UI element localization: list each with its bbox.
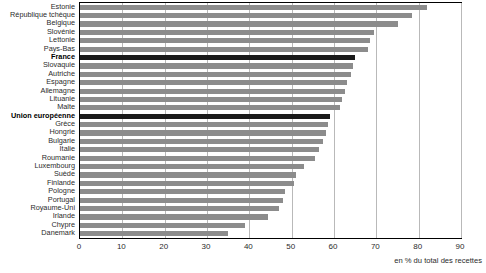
bar-row (80, 112, 461, 120)
bar-portugal (80, 198, 283, 203)
bar-row (80, 79, 461, 87)
x-tick-label: 0 (77, 242, 81, 252)
bar-row (80, 221, 461, 229)
category-label: Chypre (51, 221, 75, 228)
x-axis-tick-labels: 0102030405060708090 (79, 242, 462, 254)
x-tick-label: 60 (329, 242, 338, 252)
category-label: Malte (57, 103, 75, 110)
category-label: Hongrie (49, 128, 75, 135)
x-tick-label: 20 (159, 242, 168, 252)
bar-row (80, 3, 461, 11)
x-tick-label: 40 (244, 242, 253, 252)
bar-lituanie (80, 97, 342, 102)
x-tick-label: 50 (286, 242, 295, 252)
category-label: Suède (54, 170, 75, 177)
bar-row (80, 95, 461, 103)
bar-danemark (80, 231, 228, 236)
x-tick-label: 30 (202, 242, 211, 252)
chart-container: EstonieRépublique tchèqueBelgiqueSlovéni… (0, 0, 486, 273)
bar-row (80, 11, 461, 19)
x-axis-label: en % du total des recettes (394, 256, 482, 265)
bar-row (80, 230, 461, 238)
category-label: Pologne (48, 187, 75, 194)
category-label: Lettonie (49, 36, 75, 43)
bar-su-de (80, 172, 296, 177)
category-label: Pays-Bas (44, 45, 75, 52)
x-tick-label: 90 (456, 242, 465, 252)
category-label: Grèce (55, 120, 75, 127)
bar-espagne (80, 80, 347, 85)
bar-malte (80, 105, 340, 110)
category-label: Belgique (47, 19, 75, 26)
category-label: Slovaquie (43, 61, 75, 68)
plot-area (79, 2, 462, 239)
bar-pologne (80, 189, 285, 194)
category-label: Italie (60, 145, 75, 152)
bar-row (80, 62, 461, 70)
category-label: Allemagne (41, 87, 75, 94)
category-label: Finlande (47, 179, 75, 186)
bar-row (80, 188, 461, 196)
bar-row (80, 162, 461, 170)
x-tick-label: 80 (413, 242, 422, 252)
bar-autriche (80, 72, 351, 77)
bar-slov-nie (80, 30, 374, 35)
bar-luxembourg (80, 164, 304, 169)
bar-row (80, 45, 461, 53)
category-label: Autriche (48, 70, 75, 77)
bar-france (80, 55, 355, 60)
category-axis-labels: EstonieRépublique tchèqueBelgiqueSlovéni… (0, 2, 77, 239)
bar-union-europ-enne (80, 114, 330, 119)
gridline (461, 3, 462, 238)
bar-row (80, 213, 461, 221)
category-label: France (51, 53, 75, 60)
category-label: Portugal (48, 196, 75, 203)
bar-row (80, 20, 461, 28)
bar-italie (80, 147, 319, 152)
category-label: Espagne (46, 78, 75, 85)
category-label: Roumanie (42, 154, 75, 161)
bar-pays-bas (80, 47, 368, 52)
bar-roumanie (80, 156, 315, 161)
bar-row (80, 120, 461, 128)
bar-lettonie (80, 38, 370, 43)
bar-hongrie (80, 130, 326, 135)
bar-finlande (80, 181, 294, 186)
bar-row (80, 171, 461, 179)
category-label: Danemark (41, 229, 75, 236)
bar-row (80, 129, 461, 137)
bar-royaume-uni (80, 206, 279, 211)
bar-bulgarie (80, 139, 323, 144)
category-label: Estonie (51, 3, 75, 10)
bar-row (80, 196, 461, 204)
bar-belgique (80, 21, 398, 26)
bar-row (80, 204, 461, 212)
bar-chypre (80, 223, 245, 228)
bar-row (80, 53, 461, 61)
bar-gr-ce (80, 122, 328, 127)
bar-estonie (80, 5, 427, 10)
category-label: Luxembourg (34, 162, 75, 169)
bar-row (80, 154, 461, 162)
bar-allemagne (80, 89, 345, 94)
category-label: République tchèque (10, 11, 75, 18)
x-tick-label: 70 (371, 242, 380, 252)
bar-irlande (80, 214, 268, 219)
bar-row (80, 28, 461, 36)
bar-row (80, 146, 461, 154)
bar-slovaquie (80, 63, 353, 68)
bar-row (80, 179, 461, 187)
bar-r-publique-tch-que (80, 13, 412, 18)
bar-row (80, 137, 461, 145)
x-tick-label: 10 (117, 242, 126, 252)
bar-row (80, 104, 461, 112)
bar-row (80, 37, 461, 45)
category-label: Royaume-Uni (30, 204, 75, 211)
category-label: Union européenne (11, 112, 75, 119)
bar-rows (80, 3, 461, 238)
category-label: Bulgarie (48, 137, 75, 144)
category-label: Lituanie (49, 95, 75, 102)
bar-row (80, 87, 461, 95)
bar-row (80, 70, 461, 78)
category-label: Irlande (53, 212, 75, 219)
